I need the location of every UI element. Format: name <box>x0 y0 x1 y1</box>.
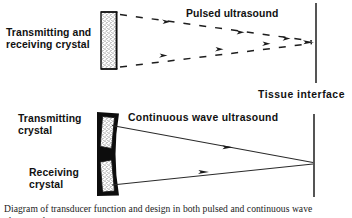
label-transmitting-crystal: Transmitting crystal <box>18 113 82 138</box>
figure-caption: Diagram of transducer function and desig… <box>4 203 350 218</box>
label-tissue-interface: Tissue interface <box>258 89 345 101</box>
label-continuous-wave-ultrasound: Continuous wave ultrasound <box>128 112 278 124</box>
receiving-crystal <box>100 160 114 192</box>
continuous-beam-transmit-line <box>112 126 313 163</box>
transducer-diagram-figure: Transmitting and receiving crystal Pulse… <box>0 0 352 218</box>
label-receiving-crystal: Receiving crystal <box>29 167 79 192</box>
label-transmitting-and-receiving-crystal: Transmitting and receiving crystal <box>6 27 91 52</box>
pulsed-crystal-block <box>101 12 118 69</box>
transmitting-crystal <box>100 117 114 149</box>
label-pulsed-ultrasound: Pulsed ultrasound <box>186 8 278 20</box>
continuous-beam-receive-line <box>112 164 313 185</box>
pulsed-beam-lower-edge <box>120 44 312 68</box>
